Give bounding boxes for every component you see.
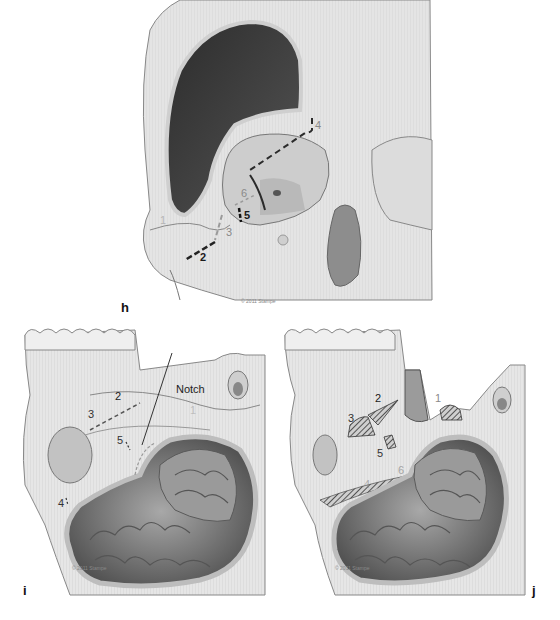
panel-letter-j: j [532, 583, 536, 598]
label-5: 5 [244, 210, 250, 221]
label-6: 6 [241, 188, 247, 199]
label-2: 2 [115, 391, 121, 402]
label-5: 5 [117, 435, 123, 446]
skull-frontal-illustration [140, 0, 440, 305]
nasal-aperture [327, 205, 361, 286]
notch-callout: Notch [176, 383, 205, 395]
label-2: 2 [375, 393, 381, 404]
panel-letter-h: h [121, 300, 129, 315]
label-6: 6 [398, 465, 404, 476]
label-3: 3 [88, 409, 94, 420]
panel-h: 1 2 3 4 5 6 © 2011 Stampe [140, 0, 440, 305]
cut-surface-1 [440, 405, 462, 420]
copyright: © 2011 Stampe [241, 298, 275, 304]
label-3: 3 [226, 227, 232, 238]
teeth-row [25, 329, 135, 350]
label-3: 3 [348, 413, 354, 424]
label-1: 1 [435, 393, 441, 404]
label-4: 4 [364, 479, 370, 490]
skull-lateral-after-cuts-illustration [280, 325, 540, 600]
label-2: 2 [200, 252, 206, 263]
label-1: 1 [160, 215, 166, 226]
panel-letter-i: i [23, 583, 27, 598]
label-5: 5 [377, 448, 383, 459]
copyright: © 2011 Stampe [335, 565, 369, 571]
skull-lateral-craniotomy-illustration [0, 325, 275, 600]
copyright: © 2011 Stampe [72, 565, 106, 571]
panel-i: 1 2 3 4 5 Notch © 2011 Stampe [0, 325, 275, 600]
label-4: 4 [315, 120, 321, 131]
panel-j: 1 2 3 4 5 6 © 2011 Stampe [280, 325, 540, 600]
label-1: 1 [190, 405, 196, 416]
label-4: 4 [58, 498, 64, 509]
teeth-row [285, 329, 395, 350]
